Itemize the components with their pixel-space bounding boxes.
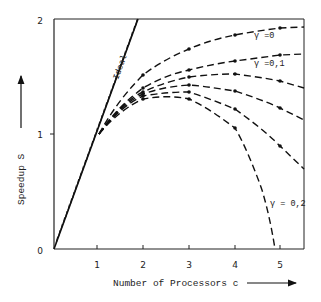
x-tick-1: 1 [94, 260, 100, 270]
y-tick-0: 0 [37, 246, 43, 256]
curve-gamma-4 [99, 85, 304, 134]
label-gamma-0: γ =0 [254, 31, 274, 41]
label-gamma-0-2: γ = 0,2 [270, 199, 306, 209]
x-axis-label: Number of Processors c [113, 278, 239, 289]
data-points [141, 26, 282, 148]
label-gamma-0-1: γ =0,1 [254, 59, 285, 69]
y-axis-label: Speedup S [16, 153, 27, 205]
x-tick-5: 5 [277, 260, 283, 270]
y-tick-2: 2 [37, 16, 43, 26]
x-tick-4: 4 [232, 260, 238, 270]
x-tick-3: 3 [186, 260, 192, 270]
y-tick-1: 1 [37, 130, 43, 140]
curve-gamma-3 [99, 74, 304, 134]
speedup-chart: 1 2 3 4 5 0 1 2 Number of Processors c S… [0, 0, 321, 302]
curve-gamma-5 [99, 92, 304, 169]
ideal-line [54, 19, 138, 249]
x-tick-2: 2 [140, 260, 146, 270]
ideal-label: Ideal [111, 54, 129, 81]
